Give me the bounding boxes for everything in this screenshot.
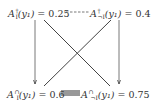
node-base: A: [81, 89, 88, 100]
node-base: A: [90, 8, 97, 19]
node-eq: =: [121, 8, 135, 19]
node-bottom-right: A∩¬I(y₁) = 0.75: [81, 87, 150, 103]
node-value: 0.4: [135, 8, 150, 19]
node-sub: ¬I: [90, 94, 97, 101]
node-eq: =: [114, 89, 128, 100]
lattice-diagram: A†I(y₁) = 0.25 A†¬I(y₁) = 0.4 A∩I(y₁) = …: [0, 0, 159, 106]
node-sub: ¬I: [97, 13, 104, 20]
node-value: 0.6: [49, 89, 64, 100]
node-base: A: [8, 8, 15, 19]
node-eq: =: [34, 8, 48, 19]
node-top-right: A†¬I(y₁) = 0.4: [90, 6, 150, 22]
node-arg: (y₁): [18, 8, 35, 19]
node-arg: (y₁): [98, 89, 115, 100]
node-value: 0.75: [128, 89, 149, 100]
node-eq: =: [35, 89, 49, 100]
node-base: A: [7, 89, 14, 100]
node-bottom-left: A∩I(y₁) = 0.6: [7, 87, 64, 103]
node-value: 0.25: [48, 8, 69, 19]
node-top-left: A†I(y₁) = 0.25: [8, 6, 70, 22]
node-arg: (y₁): [105, 8, 122, 19]
node-arg: (y₁): [19, 89, 36, 100]
